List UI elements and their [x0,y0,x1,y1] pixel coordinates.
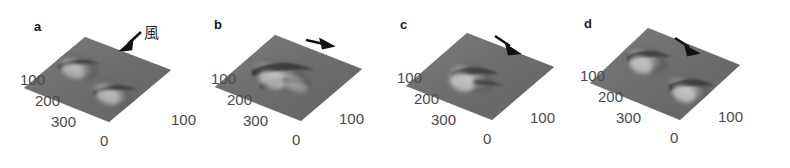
panel-b: b [198,0,396,168]
y-tick-100-d: 100 [580,68,605,83]
x-tick-100-c: 100 [530,110,555,125]
x-tick-100-b: 100 [339,111,364,126]
panel-d: d [580,0,790,168]
y-tick-100-c: 100 [397,70,422,85]
x-tick-0-c: 0 [483,131,491,146]
panel-a: a [0,0,198,168]
wind-arrow-icon-d [673,35,703,57]
y-tick-300-b: 300 [243,113,268,128]
y-tick-100-b: 100 [211,71,236,86]
x-tick-100-a: 100 [171,112,196,127]
y-tick-200-b: 200 [227,92,252,107]
x-tick-0-d: 0 [670,130,678,145]
panel-label-b: b [214,18,222,31]
x-tick-0-a: 0 [100,133,108,148]
panel-label-c: c [400,18,407,31]
wind-label-a: 風 [144,26,159,41]
y-tick-300-c: 300 [431,112,456,127]
y-tick-300-a: 300 [51,114,76,129]
wind-arrow-icon-c [493,33,523,57]
y-tick-200-d: 200 [598,89,623,104]
panel-c: c [391,0,589,168]
panel-label-d: d [584,17,592,30]
surface-svg-d [580,0,790,168]
y-tick-300-d: 300 [616,110,641,125]
x-tick-100-d: 100 [718,109,743,124]
surface-plot-d [580,0,790,168]
panel-label-a: a [34,20,41,33]
y-tick-200-a: 200 [35,93,60,108]
wind-arrow-icon-b [304,36,336,52]
y-tick-100-a: 100 [20,72,45,87]
wind-arrow-icon-a [119,30,145,52]
y-tick-200-c: 200 [414,91,439,106]
x-tick-0-b: 0 [292,132,300,147]
figure-panel-series: a [0,0,790,168]
